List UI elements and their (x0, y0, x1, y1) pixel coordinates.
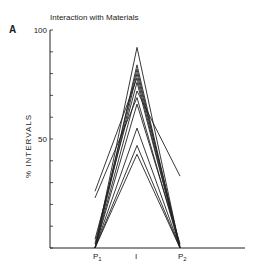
x-tick-label-P2: P2 (178, 252, 187, 262)
chart-title: Interaction with Materials (50, 13, 138, 22)
x-tick-subscript: 2 (183, 256, 187, 262)
series-line-subject-9 (95, 104, 180, 248)
panel-label: A (9, 24, 16, 35)
series-line-subject-8 (95, 98, 180, 248)
series-lines (95, 47, 180, 248)
series-line-subject-5 (95, 78, 180, 248)
y-tick-labels: 50100 (34, 26, 48, 144)
y-tick-label-100: 100 (34, 26, 48, 35)
x-tick-labels: P1IP2 (93, 252, 187, 262)
x-tick-label-I: I (135, 252, 137, 261)
chart: Interaction with Materials A % INTERVALS… (0, 0, 256, 272)
series-line-subject-7 (95, 91, 180, 248)
y-tick-label-50: 50 (38, 135, 47, 144)
x-tick-subscript: 1 (98, 256, 102, 262)
y-axis-label: % INTERVALS (24, 114, 33, 178)
x-tick-label-P1: P1 (93, 252, 102, 262)
